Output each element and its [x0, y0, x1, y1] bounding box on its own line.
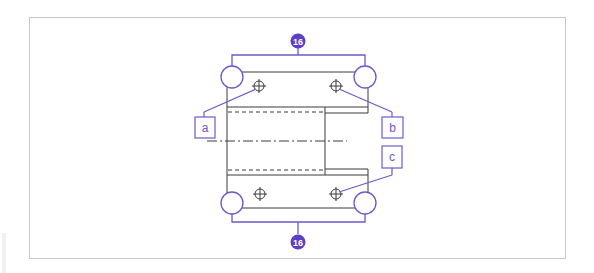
top-badge-number: 16: [293, 37, 303, 47]
hole-upper-right-icon: [329, 79, 343, 93]
label-c-text: c: [389, 150, 395, 164]
hole-lower-right-icon: [329, 187, 343, 201]
label-a-text: a: [202, 121, 209, 135]
label-b-text: b: [389, 121, 396, 135]
bottom-badge-number: 16: [293, 238, 303, 248]
hole-upper-left-icon: [252, 79, 266, 93]
label-a: a: [195, 89, 256, 138]
scan-edge-artifact: [2, 233, 6, 273]
hole-lower-left-icon: [253, 187, 267, 201]
bottom-callout-bracket: [232, 214, 365, 234]
lower-plate: [227, 175, 368, 208]
bottom-badge: 16: [291, 235, 306, 250]
mount-circle-lower-right-icon: [354, 192, 376, 214]
mount-circle-upper-left-icon: [221, 66, 243, 88]
technical-drawing: 16 16 a b c: [0, 0, 594, 273]
mount-circle-upper-right-icon: [354, 66, 376, 88]
drawing-canvas: 16 16 a b c: [0, 0, 594, 273]
top-callout-bracket: [232, 48, 365, 66]
top-badge: 16: [291, 34, 306, 49]
mount-circle-lower-left-icon: [221, 192, 243, 214]
